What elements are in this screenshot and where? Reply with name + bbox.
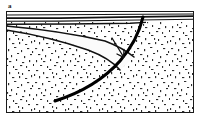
cross-section-diagram [0,0,200,117]
section-interior [6,11,194,114]
figure-root: a [0,0,200,117]
